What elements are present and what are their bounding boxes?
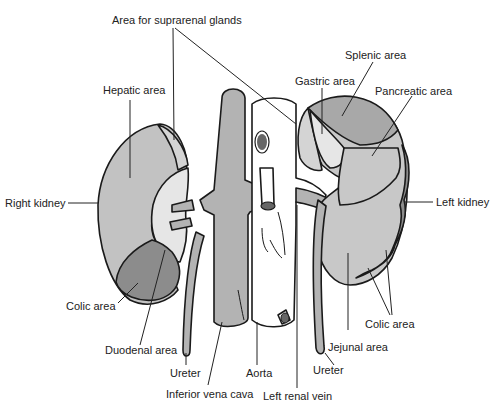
label-aorta: Aorta: [246, 367, 272, 379]
left-ureter: [313, 200, 326, 354]
label-inferior-vena-cava: Inferior vena cava: [166, 388, 253, 400]
label-right-ureter: Ureter: [170, 367, 201, 379]
label-left-colic-area: Colic area: [365, 318, 415, 330]
celiac-trunk-lumen: [257, 134, 267, 150]
ima-opening: [281, 313, 289, 323]
sma-opening: [261, 202, 275, 210]
label-right-colic-area: Colic area: [66, 300, 116, 312]
label-suprarenal-area: Area for suprarenal glands: [112, 14, 242, 26]
label-splenic-area: Splenic area: [345, 49, 406, 61]
label-hepatic-area: Hepatic area: [103, 84, 165, 96]
label-jejunal-area: Jejunal area: [328, 341, 388, 353]
kidney-relations-diagram: [0, 0, 500, 410]
label-left-ureter: Ureter: [313, 364, 344, 376]
right-ureter: [183, 232, 204, 356]
label-left-kidney: Left kidney: [436, 196, 489, 208]
label-duodenal-area: Duodenal area: [105, 344, 177, 356]
label-left-renal-vein: Left renal vein: [263, 390, 332, 402]
superior-mesenteric-artery: [260, 168, 274, 205]
label-gastric-area: Gastric area: [295, 75, 355, 87]
label-pancreatic-area: Pancreatic area: [375, 85, 452, 97]
label-right-kidney: Right kidney: [5, 197, 66, 209]
